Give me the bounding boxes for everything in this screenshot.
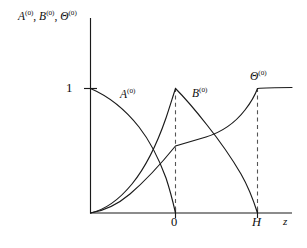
y-axis-label-a: A — [18, 10, 25, 22]
curve-label-b-base: B — [192, 87, 199, 99]
y-axis-label-theta: Θ — [60, 10, 68, 22]
curve-label-b: B(0) — [192, 88, 207, 100]
plot-canvas — [0, 0, 307, 248]
y-tick-label-one: 1 — [66, 81, 73, 94]
y-axis-label: A(0), B(0), Θ(0) — [18, 11, 77, 23]
curve-label-a: A(0) — [120, 89, 135, 101]
x-tick-label-zero: 0 — [171, 216, 177, 229]
curve-label-a-sup: (0) — [127, 87, 135, 95]
curve-label-theta-sup: (0) — [258, 69, 266, 77]
curve-a — [91, 89, 176, 214]
x-axis-label: z — [283, 216, 287, 227]
figure-container: A(0), B(0), Θ(0) 1 A(0) B(0) Θ(0) 0 H z — [0, 0, 307, 248]
curve-b — [91, 89, 258, 214]
curve-label-b-sup: (0) — [199, 86, 207, 94]
x-tick-label-h: H — [252, 216, 261, 229]
curve-label-theta: Θ(0) — [250, 71, 267, 83]
y-axis-label-theta-sup: (0) — [69, 9, 77, 17]
curve-label-a-base: A — [120, 88, 127, 100]
